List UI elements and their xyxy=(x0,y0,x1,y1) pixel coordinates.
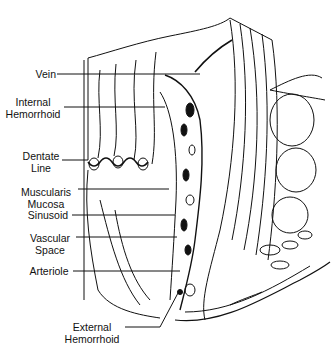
label-dentate-line: Dentate Line xyxy=(20,150,62,174)
label-muscularis-mucosa-line1: Muscularis xyxy=(21,186,71,198)
label-external-hemorrhoid: External Hemorrhoid xyxy=(60,321,124,345)
hemorrhoid-anatomy-diagram: Vein Internal Hemorrhoid Dentate Line Mu… xyxy=(0,0,336,358)
label-internal-hemorrhoid: Internal Hemorrhoid xyxy=(0,96,66,120)
label-arteriole-text: Arteriole xyxy=(29,265,68,277)
label-vein-text: Vein xyxy=(36,68,56,80)
label-dentate-line-line2: Line xyxy=(31,162,51,174)
label-internal-hemorrhoid-line1: Internal xyxy=(15,96,50,108)
label-vascular-space: Vascular Space xyxy=(24,232,76,256)
label-external-hemorrhoid-line2: Hemorrhoid xyxy=(65,333,120,345)
label-dentate-line-line1: Dentate xyxy=(23,150,60,162)
label-external-hemorrhoid-line1: External xyxy=(73,321,112,333)
label-internal-hemorrhoid-line2: Hemorrhoid xyxy=(6,108,61,120)
label-arteriole: Arteriole xyxy=(24,265,74,277)
label-vascular-space-line1: Vascular xyxy=(30,232,70,244)
label-vein: Vein xyxy=(20,68,56,80)
label-sinusoid-text: Sinusoid xyxy=(28,209,68,221)
label-vascular-space-line2: Space xyxy=(35,244,65,256)
anatomy-illustration xyxy=(0,0,336,358)
label-sinusoid: Sinusoid xyxy=(24,209,72,221)
label-muscularis-mucosa: Muscularis Mucosa xyxy=(16,186,76,210)
